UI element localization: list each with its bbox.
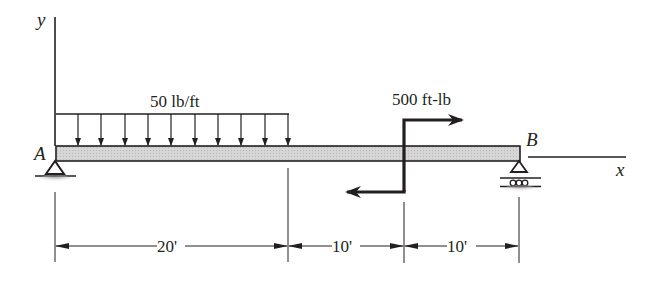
couple-label: 500 ft-lb <box>392 90 451 109</box>
x-axis-label: x <box>615 159 625 180</box>
dimension-10ft-second-label: 10' <box>447 237 467 256</box>
point-a-label: A <box>32 143 46 164</box>
distributed-load <box>56 114 289 145</box>
dimension-20ft: 20' <box>56 237 287 256</box>
dimension-10ft-second: 10' <box>405 237 518 256</box>
pin-support-a <box>35 161 76 185</box>
roller-support-b <box>500 161 541 195</box>
point-b-label: B <box>526 129 538 150</box>
beam-diagram: y x 50 lb/ft 500 ft-lb A B <box>0 0 649 285</box>
dimension-10ft-first: 10' <box>289 237 403 256</box>
y-axis-label: y <box>35 9 46 30</box>
dimension-20ft-label: 20' <box>157 237 177 256</box>
beam <box>56 146 520 161</box>
dimension-10ft-first-label: 10' <box>332 237 352 256</box>
distributed-load-label: 50 lb/ft <box>150 92 200 111</box>
